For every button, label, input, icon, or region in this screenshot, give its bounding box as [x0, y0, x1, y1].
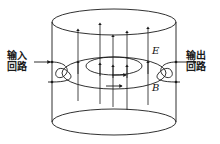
- input-coupling-loop: [48, 61, 71, 84]
- cavity-resonator-figure: 输入 回路 输出 回路 E B: [0, 0, 220, 144]
- input-loop-node-top: [51, 61, 54, 64]
- cylinder-bottom-ellipse: [52, 109, 176, 135]
- input-circuit-label: 输入 回路: [7, 50, 27, 72]
- b-field-ring-inner: [86, 57, 142, 75]
- cylinder-body: [52, 9, 176, 135]
- input-circuit-label-line2: 回路: [7, 61, 27, 72]
- output-coupling-loop: [157, 61, 180, 84]
- cylinder-top-ellipse: [52, 9, 176, 35]
- electric-field-label: E: [152, 45, 159, 56]
- b-field-direction-arrows: [106, 75, 126, 86]
- output-circuit-label-line2: 回路: [186, 61, 206, 72]
- magnetic-field-label: B: [152, 82, 159, 93]
- output-loop-node-top: [175, 61, 178, 64]
- diagram-canvas: [0, 0, 220, 144]
- output-circuit-label: 输出 回路: [186, 50, 206, 72]
- output-loop-node-bottom: [175, 81, 178, 84]
- output-circuit-label-line1: 输出: [186, 50, 206, 61]
- input-loop-node-bottom: [51, 81, 54, 84]
- input-circuit-label-line1: 输入: [7, 50, 27, 61]
